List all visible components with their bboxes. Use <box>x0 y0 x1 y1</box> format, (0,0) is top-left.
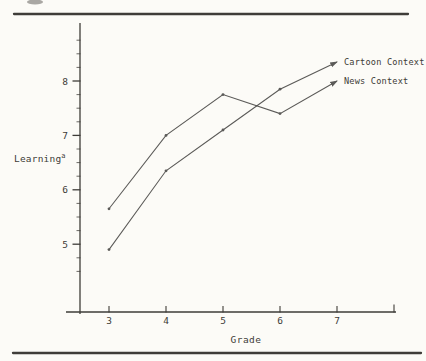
y-tick-label: 7 <box>54 130 68 141</box>
y-axis-title-superscript: a <box>61 152 65 160</box>
scanned-figure-page: Learninga Grade Cartoon Context News Con… <box>0 0 426 361</box>
legend-label-cartoon-context: Cartoon Context <box>344 57 425 67</box>
series-line-1 <box>109 62 337 250</box>
x-tick-label: 5 <box>216 315 230 326</box>
y-axis-title: Learninga <box>14 153 66 164</box>
y-tick-label: 5 <box>54 239 68 250</box>
x-tick-label: 7 <box>330 315 344 326</box>
legend-label-news-context: News Context <box>344 76 409 86</box>
y-axis-title-text: Learning <box>14 153 61 164</box>
x-tick-label: 3 <box>102 315 116 326</box>
chart-canvas <box>0 0 426 361</box>
scan-smudge <box>27 0 43 5</box>
y-tick-label: 6 <box>54 184 68 195</box>
x-tick-label: 4 <box>159 315 173 326</box>
x-tick-label: 6 <box>273 315 287 326</box>
x-axis-title: Grade <box>214 334 278 345</box>
y-tick-label: 8 <box>54 76 68 87</box>
series-line-2 <box>109 81 337 209</box>
